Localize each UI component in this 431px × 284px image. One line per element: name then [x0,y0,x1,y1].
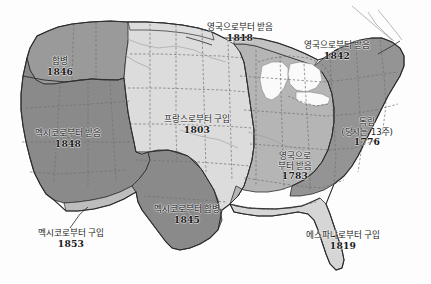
territorial-expansion-map: 합병 1846 멕시코로부터 받음 1848 멕시코로부터 구입 1853 멕시… [0,0,431,284]
label-texas-annexation-text: 멕시코로부터 합병 [133,204,241,215]
label-red-river-1818-text: 영국으로부터 받음 [186,22,294,33]
label-mexican-cession: 멕시코로부터 받음 1848 [13,128,123,149]
label-webster-ashburton-1842: 영국으로부터 받음 1842 [283,40,391,61]
label-mexican-cession-year: 1848 [13,139,123,150]
label-treaty-of-paris-1783-year: 1783 [264,171,326,182]
label-gadsden-purchase: 멕시코로부터 구입 1853 [16,228,126,249]
label-webster-ashburton-1842-year: 1842 [283,51,391,62]
label-webster-ashburton-1842-text: 영국으로부터 받음 [283,40,391,51]
label-gadsden-purchase-text: 멕시코로부터 구입 [16,228,126,239]
label-oregon-annexation: 합병 1846 [31,56,89,77]
label-texas-annexation-year: 1845 [133,215,241,226]
label-red-river-1818: 영국으로부터 받음 1818 [186,22,294,43]
label-texas-annexation: 멕시코로부터 합병 1845 [133,204,241,225]
label-treaty-of-paris-1783: 영국으로 부터 받음 1783 [264,152,326,182]
label-original-thirteen-1776-year: 1776 [331,137,403,148]
label-florida-purchase-1819-text: 에스파냐로부터 구입 [285,230,401,241]
label-oregon-annexation-text: 합병 [31,56,89,67]
label-mexican-cession-text: 멕시코로부터 받음 [13,128,123,139]
label-gadsden-purchase-year: 1853 [16,239,126,250]
label-oregon-annexation-year: 1846 [31,67,89,78]
label-florida-purchase-1819: 에스파냐로부터 구입 1819 [285,230,401,251]
label-louisiana-purchase-year: 1803 [147,125,247,136]
label-florida-purchase-1819-year: 1819 [285,241,401,252]
label-louisiana-purchase: 프랑스로부터 구입 1803 [147,114,247,135]
label-louisiana-purchase-text: 프랑스로부터 구입 [147,114,247,125]
label-red-river-1818-year: 1818 [186,33,294,44]
label-original-thirteen-1776: 독립 (당시는 13주) 1776 [331,118,403,148]
